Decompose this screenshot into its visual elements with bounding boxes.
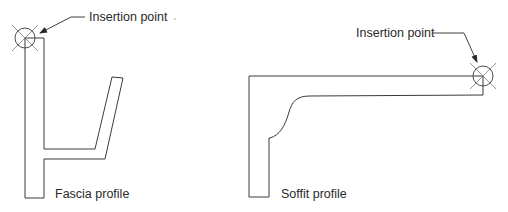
stray-dot xyxy=(174,18,175,19)
fascia-label: Fascia profile xyxy=(55,187,129,201)
soffit-profile: Insertion point Soffit profile xyxy=(249,26,496,201)
soffit-outline xyxy=(249,76,483,197)
soffit-leader-arrow xyxy=(432,33,477,62)
fascia-insertion-label: Insertion point xyxy=(89,10,168,24)
fascia-profile: Insertion point Fascia profile xyxy=(12,10,176,201)
profiles-diagram: Insertion point Fascia profile Insertion… xyxy=(0,0,508,212)
fascia-outline xyxy=(25,38,123,198)
soffit-label: Soffit profile xyxy=(281,187,347,201)
soffit-insertion-label: Insertion point xyxy=(356,26,435,40)
fascia-leader-arrow xyxy=(40,17,85,33)
